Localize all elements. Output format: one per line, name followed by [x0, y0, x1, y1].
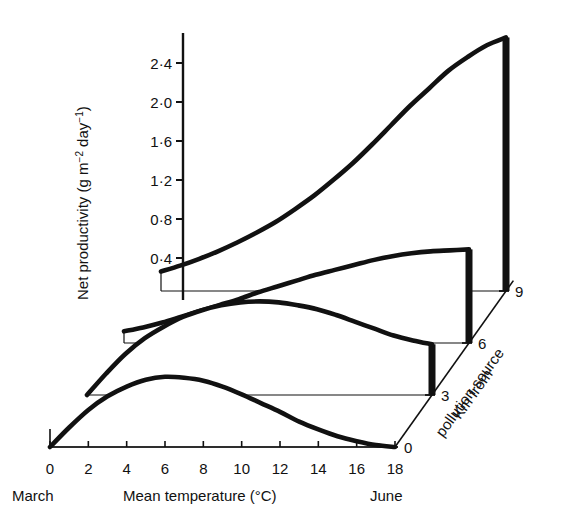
y-axis-title-text: Net productivity (g m−2 day−1): [74, 106, 91, 300]
y-axis-tick-labels: 0·40·81·21·62·02·4: [150, 55, 172, 267]
x-tick-label: 8: [199, 460, 207, 477]
y-tick-label: 2·4: [150, 55, 172, 72]
y-tick-label: 0·8: [150, 211, 172, 228]
y-tick-label: 0·4: [150, 250, 172, 267]
x-axis-tick-labels: 024681012141618: [46, 460, 404, 477]
y-axis-title: Net productivity (g m−2 day−1): [74, 106, 91, 300]
x-tick-label: 16: [348, 460, 365, 477]
y-tick-label: 1·6: [150, 133, 172, 150]
z-tick-label: 6: [478, 335, 486, 352]
three-d-ribbon-chart: 0·40·81·21·62·02·4 024681012141618 0369 …: [0, 0, 576, 527]
y-tick-label: 2·0: [150, 94, 172, 111]
x-tick-label: 14: [310, 460, 327, 477]
march-label: March: [12, 487, 54, 504]
x-tick-label: 10: [233, 460, 250, 477]
y-tick-label: 1·2: [150, 172, 172, 189]
june-label: June: [370, 487, 403, 504]
ribbon-surfaces: [50, 35, 506, 447]
x-tick-label: 0: [46, 460, 54, 477]
x-tick-label: 12: [272, 460, 289, 477]
x-tick-label: 2: [84, 460, 92, 477]
z-tick-label: 9: [515, 283, 523, 300]
x-tick-label: 4: [122, 460, 130, 477]
chart-figure: 0·40·81·21·62·02·4 024681012141618 0369 …: [0, 0, 576, 527]
x-tick-label: 6: [161, 460, 169, 477]
z-tick-label: 3: [441, 387, 449, 404]
z-tick-label: 0: [404, 439, 412, 456]
x-axis-title-text: Mean temperature (°C): [123, 487, 277, 504]
x-tick-label: 18: [387, 460, 404, 477]
